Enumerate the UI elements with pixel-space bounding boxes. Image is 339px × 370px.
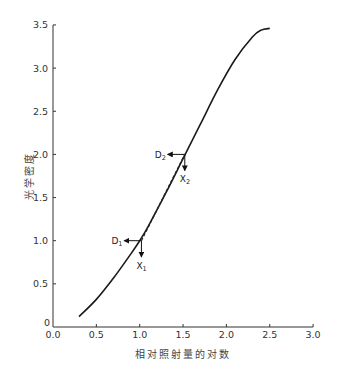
y-axis-label: 光学密度 xyxy=(23,152,35,200)
x-axis-label: 相对照射量的对数 xyxy=(135,348,231,360)
exposure-marker-2: X2 xyxy=(180,154,190,186)
x-tick-label: 1.0 xyxy=(132,329,147,340)
y-tick-label: 0 xyxy=(44,317,50,328)
y-tick-label: 3.0 xyxy=(33,63,48,74)
x-tick-label: 0.0 xyxy=(45,329,60,340)
axes: 0.00.51.01.52.02.53.000.51.01.52.02.53.0… xyxy=(33,19,321,340)
y-tick-label: 2.5 xyxy=(33,106,48,117)
svg-text:D1: D1 xyxy=(111,236,122,248)
annotations: D1X1D2X2 xyxy=(111,150,190,273)
plot-area xyxy=(79,28,270,316)
characteristic-curve-chart: 0.00.51.01.52.02.53.000.51.01.52.02.53.0… xyxy=(0,0,339,370)
exposure-marker-1: X1 xyxy=(136,241,146,273)
y-tick-label: 3.5 xyxy=(33,19,48,30)
y-tick-label: 0.5 xyxy=(33,278,48,289)
y-tick-label: 2.0 xyxy=(33,149,48,160)
y-tick-label: 1.0 xyxy=(33,235,48,246)
x-tick-label: 0.5 xyxy=(89,329,104,340)
density-marker-2: D2 xyxy=(155,150,185,162)
y-tick-label: 1.5 xyxy=(33,192,48,203)
x-tick-label: 2.0 xyxy=(219,329,234,340)
svg-text:X2: X2 xyxy=(180,174,190,186)
x-tick-label: 2.5 xyxy=(262,329,277,340)
svg-text:D2: D2 xyxy=(155,150,166,162)
x-tick-label: 1.5 xyxy=(175,329,190,340)
x-tick-label: 3.0 xyxy=(306,329,321,340)
svg-text:X1: X1 xyxy=(136,261,146,273)
characteristic-curve xyxy=(79,28,270,316)
